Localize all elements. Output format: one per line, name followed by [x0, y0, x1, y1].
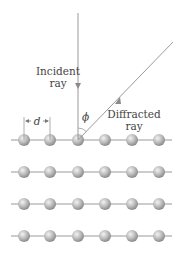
lattice-row	[11, 134, 172, 146]
atom	[126, 166, 138, 178]
atom	[99, 230, 111, 242]
lattice-row	[11, 198, 172, 210]
lattice-row	[11, 230, 172, 242]
atom	[153, 198, 165, 210]
incident-label-line2: ray	[49, 77, 66, 89]
diagram-canvas: Incident ray Diffracted ray ϕ d	[0, 0, 183, 254]
atom	[99, 166, 111, 178]
lattice	[11, 134, 172, 242]
atom	[99, 134, 111, 146]
atom	[44, 166, 56, 178]
arrow-right-icon	[45, 119, 49, 123]
atom	[99, 198, 111, 210]
diffraction-diagram: Incident ray Diffracted ray ϕ d	[0, 0, 183, 254]
atom	[126, 198, 138, 210]
diffracted-label-line1: Diffracted	[107, 108, 161, 120]
atom	[18, 198, 30, 210]
atom	[18, 166, 30, 178]
arrow-left-icon	[25, 119, 29, 123]
atom	[153, 166, 165, 178]
atom	[18, 230, 30, 242]
angle-arc	[78, 128, 87, 132]
diffracted-label-line2: ray	[125, 120, 142, 132]
atom	[153, 230, 165, 242]
atom	[44, 198, 56, 210]
angle-label: ϕ	[82, 111, 89, 123]
incident-label-line1: Incident	[36, 65, 81, 77]
atom	[72, 166, 84, 178]
atom	[44, 230, 56, 242]
arrow-down-icon	[75, 83, 81, 89]
spacing-label: d	[34, 115, 41, 127]
atom	[72, 230, 84, 242]
atom	[153, 134, 165, 146]
atom	[126, 230, 138, 242]
atom	[126, 134, 138, 146]
atom	[72, 198, 84, 210]
lattice-row	[11, 166, 172, 178]
